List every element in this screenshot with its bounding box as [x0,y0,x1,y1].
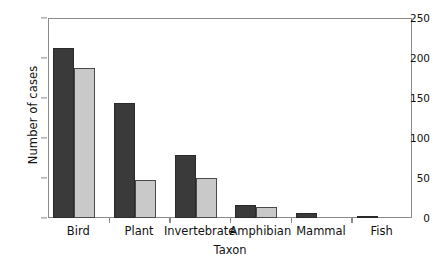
bar-fish-dark [357,216,378,218]
y-tick-mark [41,137,47,138]
bar-plant-dark [114,103,135,218]
bar-plant-light [135,180,156,218]
y-tick-label: 150 [393,92,437,104]
y-axis-title: Number of cases [26,35,40,195]
x-tick-mark [351,218,352,223]
plot-area [48,18,412,218]
bar-amphibian-dark [235,205,256,218]
x-tick-label: Amphibian [229,224,291,238]
y-tick-label: 0 [393,212,437,224]
y-tick-mark [41,57,47,58]
y-tick-mark [41,177,47,178]
x-tick-label: Mammal [296,224,346,238]
bar-bird-dark [53,48,74,218]
x-tick-mark [230,218,231,223]
bar-invertebrate-dark [175,155,196,218]
bar-invertebrate-light [196,178,217,218]
bar-mammal-dark [296,213,317,218]
y-tick-mark [41,17,47,18]
x-tick-mark [291,218,292,223]
y-tick-label: 250 [393,12,437,24]
y-tick-mark [41,97,47,98]
x-tick-label: Plant [125,224,154,238]
x-tick-label: Bird [67,224,90,238]
x-tick-mark [109,218,110,223]
x-axis-title: Taxon [48,243,412,257]
x-tick-label: Invertebrate [164,224,236,238]
bar-chart: Number of cases 050100150200250 BirdPlan… [0,0,437,266]
y-tick-label: 100 [393,132,437,144]
x-tick-mark [169,218,170,223]
y-tick-label: 200 [393,52,437,64]
bar-amphibian-light [256,207,277,218]
bar-bird-light [74,68,95,218]
y-tick-mark [41,217,47,218]
y-tick-label: 50 [393,172,437,184]
x-tick-label: Fish [371,224,393,238]
